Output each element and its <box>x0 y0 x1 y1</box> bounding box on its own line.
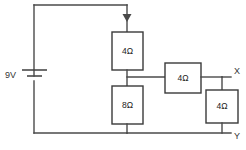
resistor-r1-label: 4Ω <box>122 46 133 56</box>
resistor-r4-label: 4Ω <box>216 101 227 111</box>
resistor-r3-label: 4Ω <box>177 73 188 83</box>
battery-voltage-label: 9V <box>5 70 16 80</box>
battery-symbol <box>22 70 47 76</box>
circuit-svg: 9V 4Ω 8Ω 4Ω 4Ω <box>0 0 246 150</box>
resistor-r2-label: 8Ω <box>122 100 133 110</box>
terminal-y-label: Y <box>234 131 240 141</box>
circuit-diagram: 9V 4Ω 8Ω 4Ω 4Ω <box>0 0 246 150</box>
terminal-x-label: X <box>234 66 240 76</box>
